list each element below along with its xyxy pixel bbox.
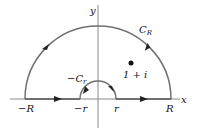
label-neg-Cr: −Cr: [67, 73, 87, 86]
y-axis-label: y: [89, 5, 96, 16]
arrow-ccw-icon: [42, 44, 49, 50]
x-axis-label: x: [181, 94, 187, 105]
label-neg-R: −R: [18, 103, 34, 114]
arrow-right-icon: [54, 96, 62, 102]
arrow-right-icon: [140, 96, 148, 102]
label-r: r: [114, 103, 120, 114]
contour-diagram: y x CR −Cr 1 + i −R −r r R: [0, 0, 197, 132]
label-CR: CR: [139, 24, 153, 37]
label-neg-r: −r: [74, 103, 88, 114]
label-point: 1 + i: [123, 69, 147, 80]
arrow-ccw-icon: [144, 43, 151, 51]
label-R: R: [165, 103, 174, 114]
point-1-plus-i: [129, 61, 134, 66]
